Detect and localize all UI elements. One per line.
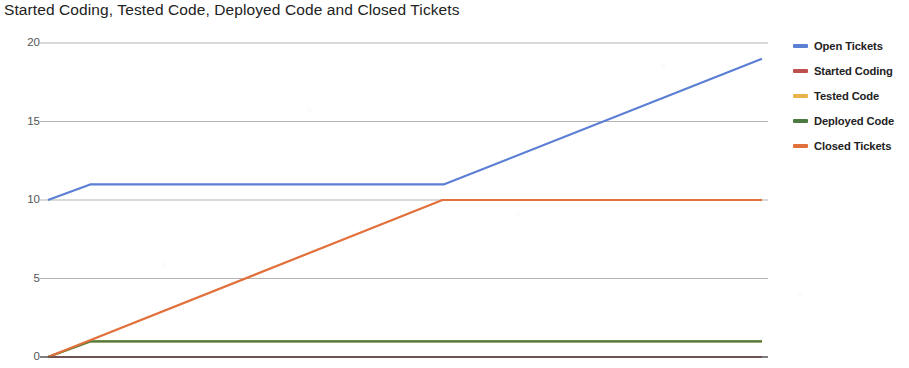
- series-line: [48, 341, 762, 357]
- legend-item[interactable]: Tested Code: [791, 86, 909, 106]
- legend-color-swatch: [793, 69, 808, 73]
- legend-label: Open Tickets: [814, 40, 883, 52]
- y-axis-tick-label: 15: [6, 116, 40, 128]
- legend-label: Started Coding: [814, 65, 893, 77]
- y-axis-tick-label: 0: [6, 351, 40, 363]
- legend-color-swatch: [793, 144, 808, 148]
- gridlines: [40, 43, 768, 279]
- y-axis-tick-label: 20: [6, 37, 40, 49]
- legend-item[interactable]: Closed Tickets: [791, 136, 909, 156]
- legend-color-swatch: [793, 94, 808, 98]
- y-axis-tick-labels: 05101520: [0, 0, 40, 368]
- chart-container: Started Coding, Tested Code, Deployed Co…: [0, 0, 909, 368]
- legend-label: Tested Code: [814, 90, 879, 102]
- legend-label: Closed Tickets: [814, 140, 891, 152]
- legend-item[interactable]: Open Tickets: [791, 36, 909, 56]
- series-line: [48, 341, 762, 357]
- legend-item[interactable]: Deployed Code: [791, 111, 909, 131]
- legend-item[interactable]: Started Coding: [791, 61, 909, 81]
- legend-color-swatch: [793, 119, 808, 123]
- y-axis-tick-label: 5: [6, 273, 40, 285]
- y-axis-tick-label: 10: [6, 194, 40, 206]
- chart-legend: Open TicketsStarted CodingTested CodeDep…: [791, 36, 909, 161]
- legend-label: Deployed Code: [814, 115, 894, 127]
- data-series-group: [48, 59, 762, 357]
- plot-area: 05101520: [0, 0, 790, 368]
- chart-plot-svg: [0, 0, 790, 368]
- legend-color-swatch: [793, 44, 808, 48]
- series-line: [48, 59, 762, 200]
